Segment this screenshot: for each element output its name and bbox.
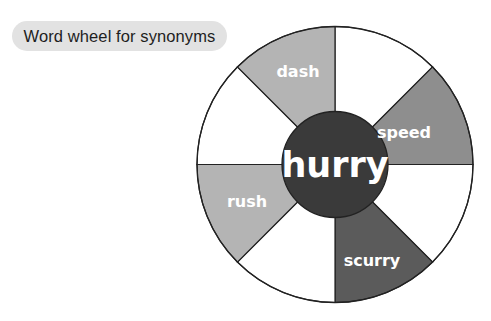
segment-label-dash: dash: [276, 62, 319, 81]
word-wheel: hurry speedscurryrushdash: [0, 0, 491, 321]
segment-label-rush: rush: [227, 192, 267, 211]
center-word: hurry: [281, 145, 388, 185]
segment-label-scurry: scurry: [344, 251, 401, 270]
segment-label-speed: speed: [377, 123, 431, 142]
